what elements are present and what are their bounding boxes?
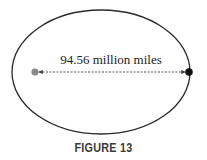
focus-point — [31, 68, 38, 75]
orbit-vertex-point — [185, 68, 193, 76]
orbit-diagram: 94.56 million miles — [0, 0, 207, 160]
distance-label: 94.56 million miles — [60, 52, 161, 67]
figure-caption: FIGURE 13 — [10, 141, 196, 155]
